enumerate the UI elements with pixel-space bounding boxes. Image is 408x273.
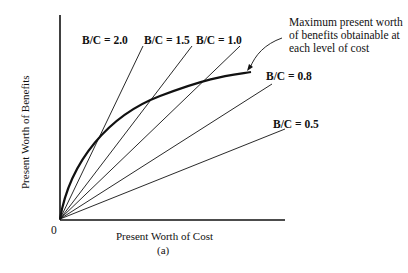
annotation-line-2: of benefits obtainable at: [289, 29, 401, 41]
ratio-label: B/C = 2.0: [82, 34, 128, 46]
ratio-label: B/C = 1.0: [196, 34, 242, 46]
ratio-label: B/C = 0.8: [266, 70, 312, 82]
ratio-lines: [60, 46, 285, 219]
origin-label: 0: [51, 224, 57, 236]
benefit-cost-diagram: Maximum present worth of benefits obtain…: [0, 0, 408, 273]
y-axis-label: Present Worth of Benefits: [19, 76, 31, 189]
ratio-line: [60, 46, 240, 219]
annotation-line-3: each level of cost: [289, 42, 370, 54]
x-axis-label: Present Worth of Cost: [116, 230, 213, 242]
arrow-head-icon: [247, 64, 253, 71]
figure-caption: (a): [157, 244, 170, 257]
annotation-arrow: [250, 38, 282, 68]
ratio-line: [60, 84, 272, 219]
ratio-label: B/C = 0.5: [273, 118, 319, 130]
ratio-label: B/C = 1.5: [144, 34, 190, 46]
diagram-canvas: Maximum present worth of benefits obtain…: [0, 0, 408, 273]
annotation-line-1: Maximum present worth: [289, 16, 403, 29]
